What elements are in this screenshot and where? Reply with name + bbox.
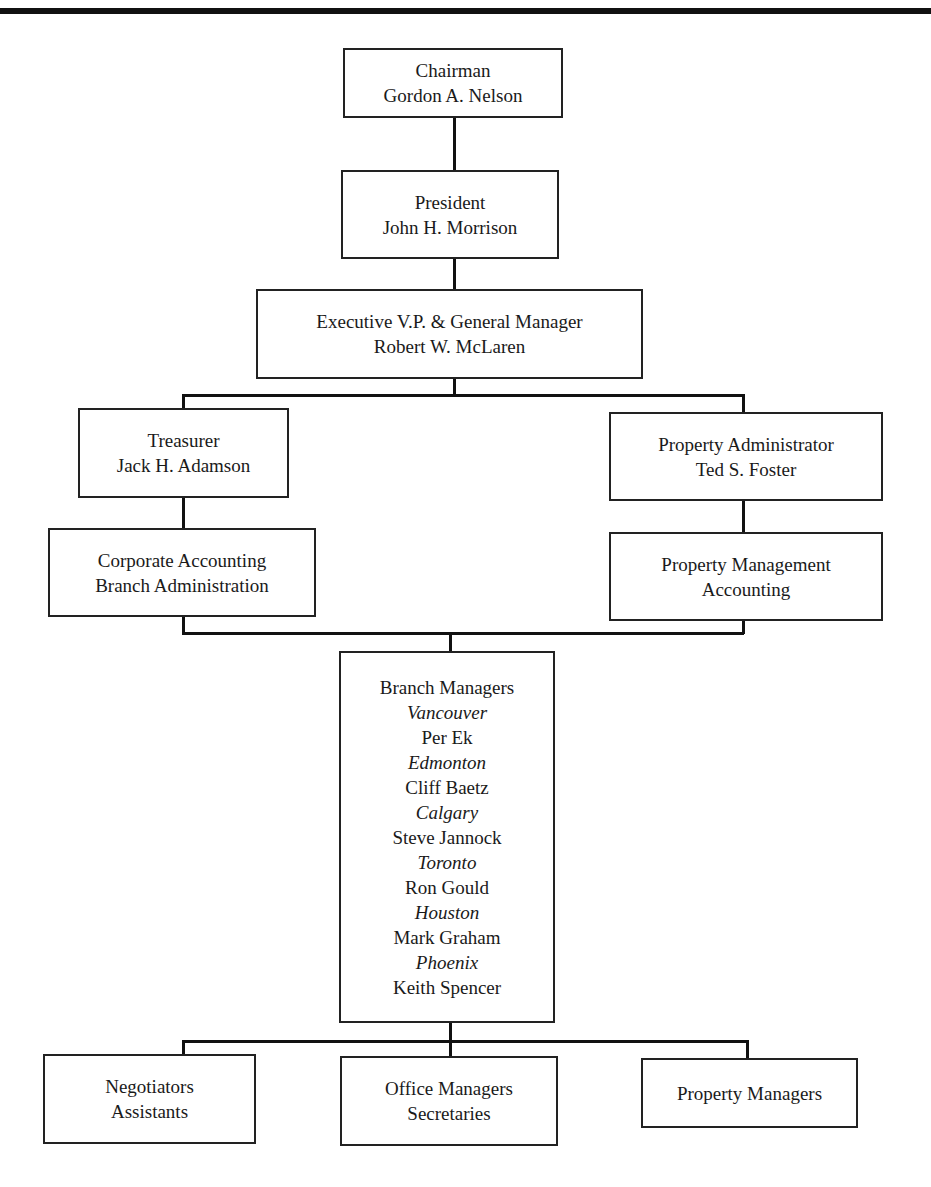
node-corporate-accounting: Corporate Accounting Branch Administrati…	[48, 528, 316, 617]
property-admin-title: Property Administrator	[658, 432, 834, 457]
connector-branch-managers-bus	[449, 1022, 452, 1042]
connector-middle-bus	[182, 632, 744, 635]
branch-manager-name: Keith Spencer	[393, 975, 501, 1000]
president-title: President	[415, 190, 486, 215]
node-president: President John H. Morrison	[341, 170, 559, 259]
branch-city: Vancouver	[407, 700, 487, 725]
node-branch-managers: Branch Managers Vancouver Per Ek Edmonto…	[339, 651, 555, 1023]
connector-chairman-president	[453, 116, 456, 170]
branch-manager-name: Per Ek	[421, 725, 472, 750]
corporate-accounting-line2: Branch Administration	[95, 573, 269, 598]
branch-city: Edmonton	[408, 750, 486, 775]
node-treasurer: Treasurer Jack H. Adamson	[78, 408, 289, 498]
chairman-title: Chairman	[416, 58, 491, 83]
branch-manager-name: Mark Graham	[393, 925, 500, 950]
branch-city: Phoenix	[416, 950, 478, 975]
node-office-managers: Office Managers Secretaries	[340, 1056, 558, 1146]
branch-city: Toronto	[418, 850, 477, 875]
top-rule	[0, 8, 931, 14]
property-admin-name: Ted S. Foster	[696, 457, 797, 482]
branch-city: Calgary	[416, 800, 478, 825]
node-property-administrator: Property Administrator Ted S. Foster	[609, 412, 883, 501]
connector-lower-bus	[182, 1040, 748, 1043]
office-managers-line2: Secretaries	[407, 1101, 490, 1126]
pm-accounting-line1: Property Management	[661, 552, 830, 577]
node-executive-vp: Executive V.P. & General Manager Robert …	[256, 289, 643, 379]
treasurer-title: Treasurer	[147, 428, 219, 453]
negotiators-line1: Negotiators	[105, 1074, 194, 1099]
branch-manager-name: Steve Jannock	[392, 825, 501, 850]
connector-treasurer-accounting	[182, 497, 185, 529]
node-property-managers: Property Managers	[641, 1058, 858, 1128]
node-chairman: Chairman Gordon A. Nelson	[343, 48, 563, 118]
connector-upper-bus	[182, 394, 744, 397]
property-managers-line1: Property Managers	[677, 1081, 822, 1106]
branch-manager-name: Cliff Baetz	[405, 775, 489, 800]
branch-managers-title: Branch Managers	[380, 675, 515, 700]
node-property-management-accounting: Property Management Accounting	[609, 532, 883, 621]
connector-bus-property-managers	[746, 1040, 749, 1060]
node-negotiators: Negotiators Assistants	[43, 1054, 256, 1144]
connector-bus-branch-managers	[449, 632, 452, 652]
chairman-name: Gordon A. Nelson	[384, 83, 523, 108]
connector-propadmin-pmaccounting	[742, 500, 745, 534]
evp-title: Executive V.P. & General Manager	[316, 309, 582, 334]
connector-president-evp	[453, 258, 456, 290]
pm-accounting-line2: Accounting	[702, 577, 791, 602]
negotiators-line2: Assistants	[111, 1099, 188, 1124]
branch-manager-name: Ron Gould	[405, 875, 489, 900]
office-managers-line1: Office Managers	[385, 1076, 513, 1101]
connector-bus-property-admin	[742, 394, 745, 414]
treasurer-name: Jack H. Adamson	[117, 453, 251, 478]
evp-name: Robert W. McLaren	[374, 334, 525, 359]
president-name: John H. Morrison	[383, 215, 518, 240]
corporate-accounting-line1: Corporate Accounting	[98, 548, 266, 573]
branch-city: Houston	[415, 900, 479, 925]
